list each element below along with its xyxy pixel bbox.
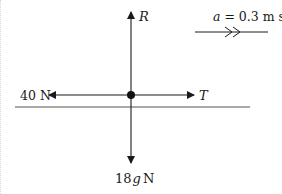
acceleration-value: = 0.3 m s [220,9,282,24]
acceleration-symbol: a [213,9,220,24]
reaction-label: R [138,9,149,24]
tension-label: T [199,88,209,103]
particle-dot [127,91,135,99]
force-diagram: R T 40 N 18gN a = 0.3 m s-2 [0,0,282,194]
weight-unit: N [143,171,154,186]
resistance-label: 40 N [20,88,51,103]
weight-coefficient: 18 [115,171,132,186]
weight-label: 18gN [115,171,154,186]
weight-gravity-symbol: g [133,171,141,186]
acceleration-label: a = 0.3 m s-2 [213,9,282,24]
